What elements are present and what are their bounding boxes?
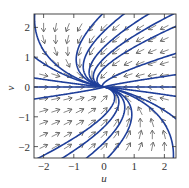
y-tick-label: 0 xyxy=(25,81,31,93)
x-tick-label: 1 xyxy=(131,160,137,172)
phase-portrait-figure: −2−1012 −2−1012 u v xyxy=(0,0,189,188)
y-tick-label: 1 xyxy=(25,51,31,63)
y-tick-label: −2 xyxy=(18,141,30,153)
y-tick-labels: −2−1012 xyxy=(18,21,30,152)
x-tick-label: 0 xyxy=(101,160,107,172)
y-tick-label: −1 xyxy=(18,111,30,123)
x-tick-label: −2 xyxy=(38,160,50,172)
x-axis-label: u xyxy=(101,172,107,184)
x-tick-label: 2 xyxy=(162,160,168,172)
x-tick-label: −1 xyxy=(68,160,80,172)
y-axis-label: v xyxy=(4,85,16,90)
y-tick-label: 2 xyxy=(25,21,31,33)
x-tick-labels: −2−1012 xyxy=(38,160,167,172)
